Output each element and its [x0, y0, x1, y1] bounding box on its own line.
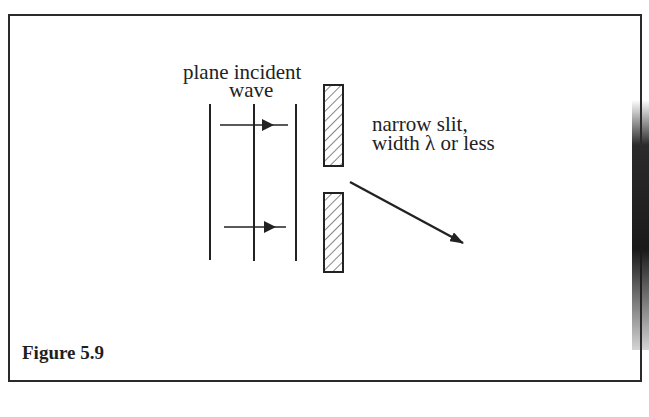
arrowhead-icon — [262, 119, 274, 131]
barrier-top — [324, 85, 343, 166]
incident-wave-label-2: wave — [229, 80, 273, 100]
slit-width-label: width λ or less — [372, 133, 495, 153]
figure-caption: Figure 5.9 — [22, 342, 104, 364]
arrowhead-icon — [264, 221, 276, 233]
diffracted-ray-icon — [350, 182, 463, 243]
slit-barriers — [324, 85, 343, 272]
barrier-bottom — [324, 193, 343, 272]
wavefronts — [210, 104, 296, 261]
